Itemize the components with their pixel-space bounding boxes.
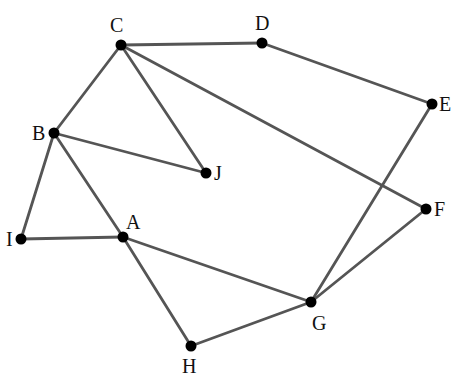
edge-a-g: [123, 237, 311, 302]
node-i: [16, 234, 27, 245]
node-label-g: G: [312, 312, 326, 334]
node-label-a: A: [126, 211, 141, 233]
edge-d-e: [262, 43, 432, 104]
edges-layer: [21, 43, 432, 346]
edge-b-i: [21, 133, 54, 239]
node-d: [257, 38, 268, 49]
edge-h-g: [191, 302, 311, 346]
edge-c-b: [54, 45, 121, 133]
node-label-c: C: [110, 14, 123, 36]
node-f: [421, 204, 432, 215]
node-label-b: B: [32, 122, 45, 144]
edge-a-h: [123, 237, 191, 346]
node-label-d: D: [255, 12, 269, 34]
node-label-h: H: [182, 355, 196, 377]
node-h: [186, 341, 197, 352]
node-b: [49, 128, 60, 139]
node-c: [116, 40, 127, 51]
node-e: [427, 99, 438, 110]
graph-diagram: ABCDEFGHIJ: [0, 0, 457, 392]
node-g: [306, 297, 317, 308]
node-label-f: F: [434, 198, 445, 220]
node-j: [201, 168, 212, 179]
node-label-e: E: [439, 93, 451, 115]
edge-c-d: [121, 43, 262, 45]
node-label-j: J: [214, 162, 222, 184]
graph-svg: ABCDEFGHIJ: [0, 0, 457, 392]
edge-g-f: [311, 209, 426, 302]
edge-i-a: [21, 237, 123, 239]
node-a: [118, 232, 129, 243]
node-label-i: I: [6, 228, 13, 250]
edge-c-f: [121, 45, 426, 209]
labels-layer: ABCDEFGHIJ: [6, 12, 451, 377]
